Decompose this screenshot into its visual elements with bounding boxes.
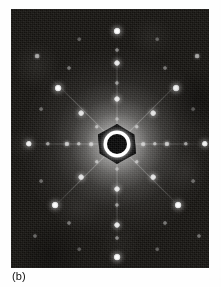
diffraction-spot	[46, 142, 50, 146]
diffraction-spot	[77, 37, 81, 41]
streak-horizontal	[29, 144, 205, 145]
diffraction-spot	[115, 48, 119, 52]
diffraction-spot	[191, 107, 195, 111]
diffraction-spot	[35, 54, 40, 59]
diffraction-spot	[202, 141, 208, 147]
diffraction-spot	[39, 179, 43, 183]
diffraction-spot	[52, 202, 59, 209]
streak-diagonal-b	[49, 76, 184, 211]
diffraction-spot	[67, 66, 71, 70]
diffraction-spot	[164, 141, 169, 146]
diffraction-spot	[197, 234, 201, 238]
film-grain-texture	[11, 9, 209, 268]
diffraction-spot	[114, 28, 121, 35]
diffraction-pattern-photograph	[11, 9, 209, 268]
beam-stop-ring	[104, 131, 131, 158]
figure-root: (b)	[0, 0, 221, 287]
diffraction-spot	[163, 66, 167, 70]
diffraction-spot	[115, 81, 119, 85]
diffraction-spot	[114, 254, 121, 261]
diffraction-spot	[163, 221, 167, 225]
diffraction-spot	[114, 222, 120, 228]
streak-vertical	[117, 39, 118, 249]
diffraction-spot	[114, 96, 120, 102]
diffraction-spot	[64, 141, 69, 146]
emulsion-mottle-texture	[11, 9, 209, 268]
diffraction-spot	[33, 234, 37, 238]
diffraction-spot	[39, 107, 43, 111]
diffraction-spot	[150, 174, 156, 180]
diffraction-spot	[150, 110, 156, 116]
diffraction-spot	[115, 117, 119, 121]
diffraction-spot	[184, 142, 188, 146]
diffraction-spot	[135, 160, 139, 164]
diffraction-spot	[115, 236, 119, 240]
diffraction-spot	[115, 203, 119, 207]
diffraction-spot	[191, 179, 195, 183]
diffraction-spot	[114, 186, 120, 192]
diffraction-spot	[77, 142, 81, 146]
diffraction-spot	[155, 37, 159, 41]
beam-stop-core	[107, 134, 127, 154]
diffraction-spot	[89, 142, 94, 147]
diffraction-spot	[95, 160, 99, 164]
central-halo-glow	[22, 49, 209, 239]
streak-diagonal-a	[49, 76, 184, 211]
diffraction-spot	[95, 125, 99, 129]
diffraction-spot	[173, 85, 180, 92]
beam-stop-hexagon	[98, 124, 136, 164]
diffraction-spot	[175, 202, 182, 209]
diffraction-spot	[115, 167, 119, 171]
diffraction-spot	[78, 110, 84, 116]
diffraction-spot	[67, 221, 71, 225]
diffraction-spot	[141, 142, 146, 147]
diffraction-spot	[114, 60, 120, 66]
diffraction-spot	[155, 247, 159, 251]
diffraction-spot	[77, 247, 81, 251]
figure-caption-label: (b)	[12, 270, 26, 283]
diffraction-spot	[78, 174, 84, 180]
diffraction-spot	[135, 125, 139, 129]
diffraction-spot	[55, 85, 62, 92]
diffraction-spot	[195, 54, 200, 59]
diffraction-spot	[26, 141, 32, 147]
diffraction-spot	[153, 142, 157, 146]
